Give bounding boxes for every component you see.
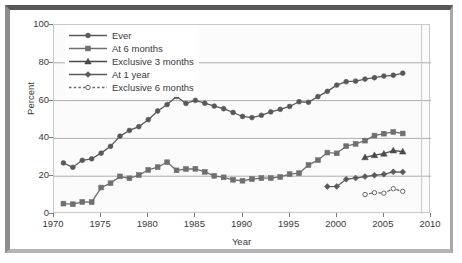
series-exclusive-6-months — [363, 186, 405, 196]
data-point-circle — [61, 161, 66, 166]
x-tick-mark — [242, 213, 243, 217]
data-point-square — [99, 185, 104, 190]
y-tick-label: 40 — [23, 132, 49, 142]
data-point-circle — [127, 128, 132, 133]
data-point-square — [278, 175, 283, 180]
data-point-circle — [136, 124, 141, 129]
x-tick-label: 1975 — [80, 219, 120, 229]
data-point-square — [136, 173, 141, 178]
data-point-circle — [363, 77, 368, 82]
y-tick-mark — [49, 62, 53, 63]
data-point-open-circle — [372, 190, 376, 194]
y-tick-mark — [49, 137, 53, 138]
y-tick-mark — [49, 24, 53, 25]
data-point-square — [268, 176, 273, 181]
data-point-square — [212, 173, 217, 178]
data-point-circle — [89, 156, 94, 161]
x-tick-mark — [430, 213, 431, 217]
data-point-circle — [202, 101, 207, 106]
data-point-circle — [70, 165, 75, 170]
data-point-circle — [80, 158, 85, 163]
data-point-square — [325, 150, 330, 155]
x-tick-mark — [147, 213, 148, 217]
y-tick-mark — [49, 213, 53, 214]
data-point-circle — [231, 110, 236, 115]
data-point-circle — [353, 79, 358, 84]
data-point-square — [127, 176, 132, 181]
data-point-circle — [316, 94, 321, 99]
data-point-diamond — [400, 169, 406, 175]
data-point-circle — [165, 102, 170, 107]
series-at-6-months — [61, 130, 405, 207]
data-point-open-circle — [86, 85, 90, 89]
legend-marker-open-circle-icon — [68, 81, 108, 94]
data-point-circle — [221, 106, 226, 111]
data-point-circle — [146, 117, 151, 122]
chart-legend: EverAt 6 monthsExclusive 3 monthsAt 1 ye… — [65, 26, 199, 97]
legend-item-at-1-year[interactable]: At 1 year — [68, 68, 194, 81]
y-tick-label: 80 — [23, 57, 49, 67]
data-point-circle — [287, 104, 292, 109]
data-point-open-circle — [382, 191, 386, 195]
data-point-square — [86, 46, 91, 51]
data-point-square — [381, 131, 386, 136]
legend-item-exclusive-3-months[interactable]: Exclusive 3 months — [68, 55, 194, 68]
data-point-circle — [297, 99, 302, 104]
data-point-circle — [240, 114, 245, 119]
y-tick-mark — [49, 175, 53, 176]
data-point-square — [89, 200, 94, 205]
data-point-square — [231, 177, 236, 182]
series-exclusive-3-months — [362, 147, 406, 160]
data-point-square — [363, 138, 368, 143]
data-point-square — [108, 181, 113, 186]
data-point-circle — [99, 151, 104, 156]
data-point-square — [259, 176, 264, 181]
legend-marker-square-icon — [68, 42, 108, 55]
data-point-square — [240, 178, 245, 183]
x-tick-mark — [383, 213, 384, 217]
data-point-circle — [86, 33, 91, 38]
data-point-square — [221, 175, 226, 180]
data-point-circle — [193, 98, 198, 103]
x-tick-mark — [194, 213, 195, 217]
data-point-circle — [400, 71, 405, 76]
data-point-circle — [381, 74, 386, 79]
x-tick-mark — [53, 213, 54, 217]
data-point-open-circle — [401, 189, 405, 193]
y-tick-label: 0 — [23, 208, 49, 218]
legend-marker-circle-icon — [68, 29, 108, 42]
data-point-circle — [268, 110, 273, 115]
data-point-square — [174, 168, 179, 173]
legend-label: Exclusive 6 months — [112, 82, 194, 94]
x-tick-label: 1990 — [222, 219, 262, 229]
y-tick-label: 100 — [23, 19, 49, 29]
legend-label: At 1 year — [112, 69, 150, 81]
data-point-square — [344, 144, 349, 149]
data-point-square — [391, 130, 396, 135]
data-point-circle — [108, 144, 113, 149]
data-point-diamond — [371, 172, 377, 178]
data-point-circle — [344, 79, 349, 84]
legend-label: Ever — [112, 30, 132, 42]
data-point-triangle — [390, 147, 397, 153]
data-point-circle — [278, 107, 283, 112]
data-point-circle — [250, 115, 255, 120]
data-point-square — [155, 165, 160, 170]
legend-label: At 6 months — [112, 43, 163, 55]
data-point-square — [334, 151, 339, 156]
data-point-square — [400, 131, 405, 136]
legend-item-exclusive-6-months[interactable]: Exclusive 6 months — [68, 81, 194, 94]
data-point-circle — [372, 75, 377, 80]
x-tick-label: 2010 — [410, 219, 450, 229]
legend-marker-diamond-icon — [68, 68, 108, 81]
x-tick-label: 1970 — [33, 219, 73, 229]
data-point-circle — [334, 83, 339, 88]
data-point-circle — [391, 73, 396, 78]
legend-item-at-6-months[interactable]: At 6 months — [68, 42, 194, 55]
data-point-square — [146, 168, 151, 173]
data-point-diamond — [85, 72, 91, 78]
data-point-square — [118, 174, 123, 179]
legend-item-ever[interactable]: Ever — [68, 29, 194, 42]
data-point-circle — [184, 101, 189, 106]
data-point-open-circle — [363, 192, 367, 196]
